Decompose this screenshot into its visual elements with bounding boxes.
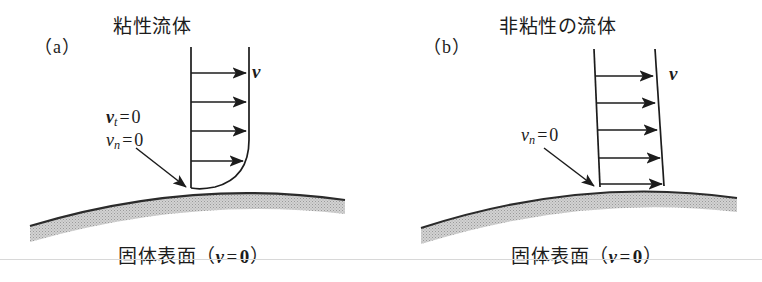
bottom-divider [0,259,762,260]
annotation-vn-symbol-b: v [521,125,529,145]
annotation-vt-symbol: v [106,107,114,127]
caption-equals-a: = [224,246,239,267]
caption-paren-close-a: ） [250,246,270,267]
annotation-vn-symbol-a: v [106,130,114,150]
figure-container: （a） 粘性流体 v vt=0 vn=0 固体表面（v=0） [0,0,762,282]
annotation-vt-equals: = [117,107,131,127]
panel-label-a: （a） [34,38,81,56]
solid-surface-b [421,191,737,244]
velocity-arrows-a [191,73,246,161]
panel-inviscid-fluid: （b） 非粘性の流体 v vn=0 固体表面（v=0） [381,0,762,282]
annotation-vt-zero: vt=0 [106,108,141,129]
caption-paren-close-b: ） [643,246,663,267]
panel-caption-a: 固体表面（v=0） [118,247,269,266]
annotation-vt-value: 0 [132,107,141,127]
panel-heading-b: 非粘性の流体 [499,17,616,36]
caption-paren-open-b: （ [589,246,609,267]
annotation-vn-zero-a: vn=0 [106,131,143,152]
caption-text-b: 固体表面 [511,246,589,267]
velocity-profile-curve-a [191,47,249,189]
annotation-leader-a [136,148,186,187]
velocity-symbol-a: v [252,62,260,81]
panel-viscous-fluid: （a） 粘性流体 v vt=0 vn=0 固体表面（v=0） [0,0,381,282]
caption-value-b: 0 [633,246,643,267]
profile-baseline-b [594,49,600,187]
annotation-vn-equals-a: = [120,130,134,150]
annotation-leader-b [544,148,594,186]
velocity-arrows-b [595,76,662,184]
panel-heading-a: 粘性流体 [113,17,191,36]
panel-caption-b: 固体表面（v=0） [511,247,662,266]
annotation-vn-value-a: 0 [134,130,143,150]
caption-value-a: 0 [240,246,250,267]
velocity-profile-edge-b [655,49,664,186]
velocity-symbol-b: v [669,64,677,83]
annotation-vn-value-b: 0 [549,125,558,145]
caption-equals-b: = [617,246,632,267]
solid-surface-a [30,193,345,242]
annotation-vn-equals-b: = [535,125,549,145]
annotation-vn-zero-b: vn=0 [521,126,558,147]
panel-label-b: （b） [423,38,471,56]
caption-text-a: 固体表面 [118,246,196,267]
caption-paren-open-a: （ [196,246,216,267]
